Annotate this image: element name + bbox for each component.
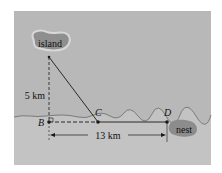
diagram-panel: island nest B C D 5 km 13 km xyxy=(0,0,222,173)
island-point xyxy=(48,56,51,59)
point-c xyxy=(96,120,100,124)
point-b xyxy=(47,120,51,124)
horizontal-distance-label: 13 km xyxy=(95,130,121,141)
island-label: island xyxy=(38,38,62,49)
label-c: C xyxy=(95,107,102,118)
point-d xyxy=(165,120,169,124)
label-d: D xyxy=(163,107,172,118)
vertical-distance-label: 5 km xyxy=(25,90,46,101)
label-b: B xyxy=(38,117,44,128)
bird-flight-diagram: island nest B C D 5 km 13 km xyxy=(0,0,222,173)
nest-label: nest xyxy=(176,124,192,135)
